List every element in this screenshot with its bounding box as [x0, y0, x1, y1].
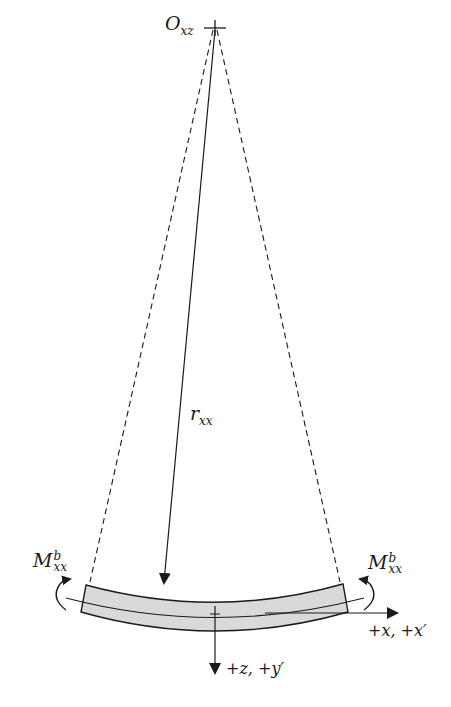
z-axis-label: +z, +y′ — [226, 659, 284, 678]
left-moment-arrow-icon — [56, 579, 70, 610]
radius-label: rxx — [190, 402, 213, 428]
moment-right-label: Mbxx — [368, 551, 402, 575]
right-moment-arrow-icon — [360, 579, 374, 610]
moment-left-label: Mbxx — [33, 549, 67, 573]
left-dashed-line — [90, 30, 213, 582]
origin-label: Oxz — [165, 12, 194, 38]
x-axis-label: +x, +x′ — [368, 621, 427, 640]
radius-arrow — [164, 30, 215, 582]
right-dashed-line — [217, 30, 340, 582]
beam-bending-diagram — [0, 0, 451, 707]
